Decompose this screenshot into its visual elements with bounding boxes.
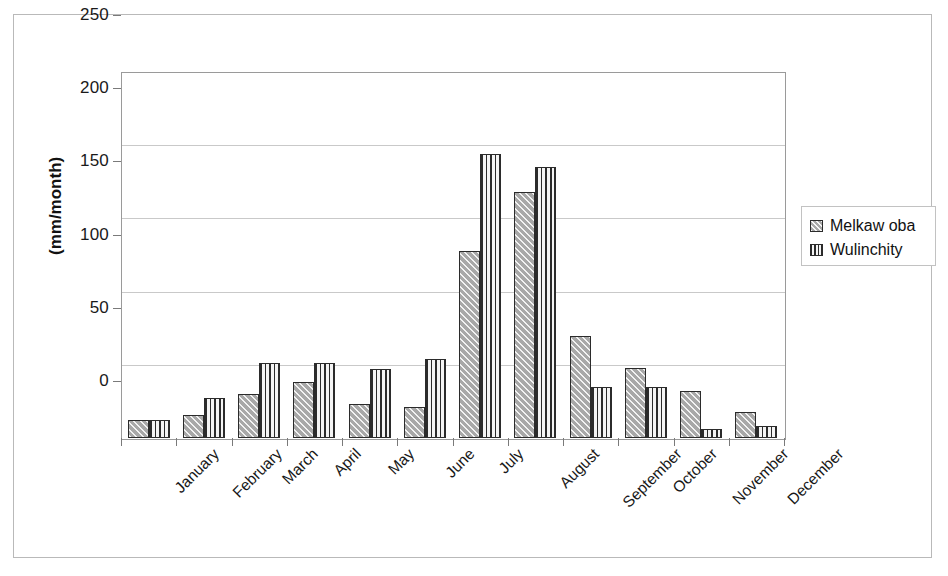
bar-group [176, 72, 231, 438]
bar-group [121, 72, 176, 438]
bar[interactable] [680, 391, 701, 438]
y-axis-tick-label: 250 [80, 5, 109, 25]
bar-group [232, 72, 287, 438]
y-axis-tick-mark [113, 88, 121, 89]
bar[interactable] [625, 368, 646, 438]
legend-item[interactable]: Wulinchity [810, 238, 935, 262]
bar-group [618, 72, 673, 438]
x-axis-tick-label: August [556, 445, 603, 492]
bars-layer [121, 72, 784, 438]
bar[interactable] [735, 412, 756, 438]
bar[interactable] [514, 192, 535, 438]
bar-group [397, 72, 452, 438]
bar[interactable] [756, 426, 777, 438]
x-axis-tick-label: April [330, 445, 365, 480]
y-axis-tick-label: 150 [80, 151, 109, 171]
bar[interactable] [149, 420, 170, 438]
bar[interactable] [570, 336, 591, 438]
legend-swatch-wulinchity [810, 244, 823, 256]
chart-frame: (mm/month) 050100150200250 JanuaryFebrua… [13, 14, 932, 558]
y-axis-tick-mark [113, 161, 121, 162]
y-axis-tick-mark [113, 308, 121, 309]
x-axis-tick-label: November [729, 445, 792, 508]
x-axis-tick-label: January [171, 445, 223, 497]
bar-group [342, 72, 397, 438]
bar-group [453, 72, 508, 438]
x-axis-tick-label: December [784, 445, 847, 508]
legend-item[interactable]: Melkaw oba [810, 214, 935, 238]
bar-group [287, 72, 342, 438]
x-axis-tick-label: June [441, 445, 478, 482]
bar[interactable] [535, 167, 556, 438]
bar-group [674, 72, 729, 438]
legend-swatch-melkaw-oba [810, 220, 823, 232]
bar[interactable] [259, 363, 280, 438]
y-axis-tick-mark [113, 15, 121, 16]
bar-group [729, 72, 784, 438]
x-axis-tick-label: February [229, 445, 286, 502]
legend-label: Wulinchity [830, 241, 903, 259]
y-axis-tick-mark [113, 381, 121, 382]
x-axis-tick-label: July [495, 445, 527, 477]
bar[interactable] [646, 387, 667, 438]
bar[interactable] [425, 359, 446, 438]
bar[interactable] [701, 429, 722, 438]
x-axis-labels: JanuaryFebruaryMarchAprilMayJuneJulyAugu… [121, 445, 801, 555]
y-axis-tick-label: 100 [80, 225, 109, 245]
y-axis-tick-mark [113, 235, 121, 236]
bar[interactable] [128, 420, 149, 438]
bar[interactable] [293, 382, 314, 438]
bar[interactable] [404, 407, 425, 438]
bar[interactable] [314, 363, 335, 438]
bar[interactable] [238, 394, 259, 438]
y-axis-tick-label: 200 [80, 78, 109, 98]
legend-label: Melkaw oba [830, 217, 915, 235]
bar[interactable] [349, 404, 370, 438]
bar[interactable] [204, 398, 225, 438]
y-axis-tick-label: 50 [90, 298, 109, 318]
y-axis: 050100150200250 [14, 15, 121, 382]
bar-group [563, 72, 618, 438]
x-axis-tick-label: March [278, 445, 321, 488]
chart-legend: Melkaw oba Wulinchity [801, 206, 936, 266]
bar-group [508, 72, 563, 438]
bar[interactable] [183, 415, 204, 438]
x-axis-tick-label: May [385, 445, 418, 478]
bar[interactable] [480, 154, 501, 438]
bar[interactable] [370, 369, 391, 438]
bar[interactable] [459, 251, 480, 438]
y-axis-tick-label: 0 [99, 371, 109, 391]
bar[interactable] [591, 387, 612, 438]
